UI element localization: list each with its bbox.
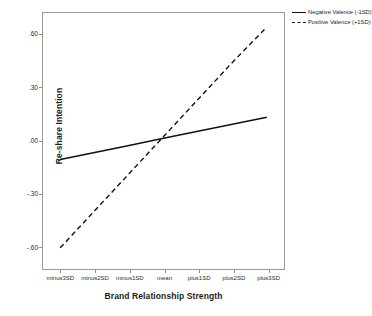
legend-swatch-solid	[292, 12, 306, 13]
y-axis-tick-label: .00	[29, 136, 38, 145]
x-axis-tick-mark	[95, 269, 96, 273]
legend-swatch-dashed	[292, 22, 306, 23]
y-axis-tick-label: -.60	[27, 243, 38, 252]
x-axis-tick-mark	[234, 269, 235, 273]
plot-area: Re-share Intention .60.30.00-.30-.60 min…	[42, 12, 285, 270]
x-axis-tick-mark	[60, 269, 61, 273]
x-axis-tick-label: plus3SD	[245, 274, 293, 282]
plot-lines	[43, 13, 284, 269]
legend-entry[interactable]: Positive Valence (+1SD)	[292, 18, 363, 27]
series-line-negative-valence	[60, 117, 267, 159]
x-axis-title: Brand Relationship Strength	[42, 291, 285, 301]
legend-label: Negative Valence (-1SD)	[308, 7, 372, 17]
x-axis-tick-mark	[199, 269, 200, 273]
legend-label: Positive Valence (+1SD)	[308, 17, 371, 27]
x-axis-tick-mark	[130, 269, 131, 273]
x-axis-tick-mark	[269, 269, 270, 273]
y-axis-tick-label: .60	[29, 29, 38, 38]
y-axis-tick-label: -.30	[27, 189, 38, 198]
series-line-positive-valence	[60, 27, 267, 248]
y-axis-tick-label: .30	[29, 83, 38, 92]
chart-legend: Negative Valence (-1SD)Positive Valence …	[292, 8, 363, 28]
x-axis-tick-mark	[165, 269, 166, 273]
legend-entry[interactable]: Negative Valence (-1SD)	[292, 8, 363, 17]
